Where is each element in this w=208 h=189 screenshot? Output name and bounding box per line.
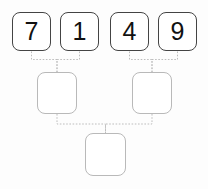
- leaf-node-3[interactable]: 4: [110, 12, 149, 51]
- leaf-node-2[interactable]: 1: [60, 12, 99, 51]
- merge-tree-diagram: 7 1 4 9: [0, 0, 208, 189]
- connector-merge-left-root: [57, 114, 106, 133]
- connector-leaf2-merge-left: [57, 52, 80, 73]
- leaf-node-4-value: 9: [171, 19, 185, 44]
- connector-merge-right-root: [106, 114, 153, 133]
- leaf-node-1[interactable]: 7: [12, 12, 51, 51]
- leaf-node-2-value: 1: [73, 19, 87, 44]
- leaf-node-4[interactable]: 9: [158, 12, 197, 51]
- merge-node-left[interactable]: [37, 72, 77, 114]
- connector-leaf3-merge-right: [130, 52, 153, 73]
- connector-leaf1-merge-left: [32, 52, 58, 73]
- merge-node-right[interactable]: [132, 72, 172, 114]
- connector-leaf4-merge-right: [152, 52, 178, 73]
- leaf-node-1-value: 7: [25, 19, 39, 44]
- leaf-node-3-value: 4: [123, 19, 137, 44]
- root-node[interactable]: [85, 133, 126, 176]
